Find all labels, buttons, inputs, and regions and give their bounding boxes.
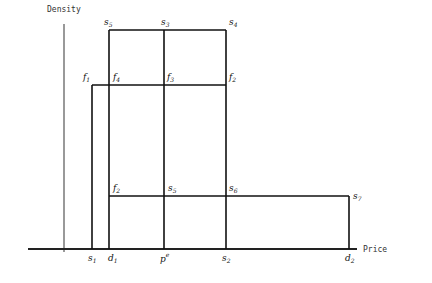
label-f4: f4 (112, 72, 120, 83)
label-s4: s4 (229, 17, 238, 28)
label-f2: f2 (112, 183, 120, 194)
label-s3: s3 (161, 17, 170, 28)
label-f3: f3 (166, 72, 174, 83)
label-s5-top: s5 (104, 17, 113, 28)
tick-s1: s1 (88, 253, 96, 264)
label-s5-mid: s5 (168, 183, 177, 194)
label-f2-right: f2 (228, 72, 236, 83)
label-s6: s6 (229, 183, 238, 194)
tick-d2: d2 (345, 253, 355, 264)
x-axis-label: Price (363, 245, 387, 254)
y-axis-label: Density (47, 5, 81, 14)
tick-pe: pe (160, 251, 170, 264)
tick-s2: s2 (222, 253, 231, 264)
label-f1: f1 (82, 72, 90, 83)
label-s7: s7 (353, 191, 362, 202)
density-diagram: Density Price s5 s3 s4 f1 f4 f3 f2 f2 s5… (0, 0, 432, 283)
tick-d1: d1 (108, 253, 118, 264)
